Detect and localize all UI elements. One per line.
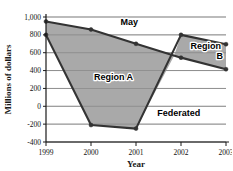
y-tick-label: -400 <box>27 138 41 147</box>
data-point <box>89 28 93 32</box>
x-tick-label: 1999 <box>39 148 54 157</box>
y-tick-label: 600 <box>30 48 42 57</box>
x-axis-title: Year <box>127 159 145 169</box>
x-tick-label: 2003 <box>219 148 233 157</box>
annotation-label: Federated <box>157 108 200 118</box>
data-point <box>134 127 138 131</box>
annotation-label: May <box>120 17 138 27</box>
y-tick-label: -200 <box>27 120 41 129</box>
area-chart: 1,0008006004002000-200-40019992000200120… <box>0 0 232 171</box>
y-axis-title: Millions of dollars <box>3 44 13 115</box>
data-point <box>134 42 138 46</box>
y-tick-label: 800 <box>30 30 42 39</box>
x-tick-label: 2001 <box>129 148 144 157</box>
data-point <box>224 67 228 71</box>
annotation-label: Region A <box>94 72 134 82</box>
data-point <box>224 42 228 46</box>
chart-container: 1,0008006004002000-200-40019992000200120… <box>0 0 232 171</box>
x-tick-label: 2000 <box>84 148 99 157</box>
y-tick-label: 0 <box>37 102 41 111</box>
x-tick-label: 2002 <box>174 148 189 157</box>
data-point <box>179 56 183 60</box>
data-point <box>179 33 183 37</box>
annotation-label: Region <box>191 41 222 51</box>
y-tick-label: 400 <box>30 66 42 75</box>
annotation-label: B <box>216 51 223 61</box>
data-point <box>89 123 93 127</box>
y-tick-label: 1,000 <box>24 13 41 22</box>
y-tick-label: 200 <box>30 84 42 93</box>
